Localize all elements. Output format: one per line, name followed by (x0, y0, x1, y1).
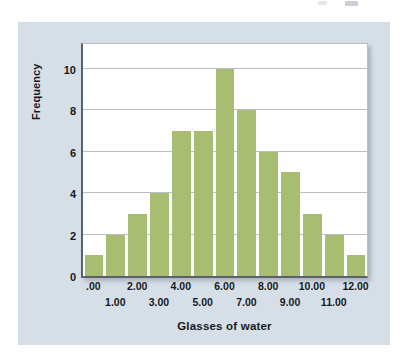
x-axis-tick-label: 2.00 (127, 281, 147, 292)
bar (259, 152, 278, 276)
scan-artifact-icon (345, 1, 358, 6)
bar (128, 214, 147, 276)
x-axis-tick-label: .00 (86, 281, 101, 292)
x-axis-tick-label: 12.00 (342, 281, 368, 292)
x-axis-tick-label: 3.00 (149, 297, 169, 308)
bar (194, 131, 213, 276)
bar (347, 255, 366, 276)
scan-artifact-icon (318, 1, 327, 5)
bar (216, 69, 235, 276)
x-axis-tick-label: 8.00 (258, 281, 278, 292)
x-axis-tick-label: 9.00 (280, 297, 300, 308)
x-axis-tick-label: 1.00 (105, 297, 125, 308)
plot-area (81, 43, 368, 278)
y-axis-tick-label: 0 (58, 272, 76, 283)
x-axis-tick-label: 10.00 (299, 281, 325, 292)
y-axis-tick-label: 6 (58, 147, 76, 158)
y-axis-title: Frequency (30, 63, 42, 120)
histogram-figure: Frequency 0246810 .001.002.003.004.005.0… (0, 0, 415, 363)
y-axis-tick-label: 8 (58, 106, 76, 117)
bar (106, 235, 125, 276)
x-axis-tick-label: 4.00 (171, 281, 191, 292)
y-axis-tick-label: 10 (58, 64, 76, 75)
bar (303, 214, 322, 276)
bar (85, 255, 104, 276)
y-axis-tick-labels: 0246810 (58, 43, 76, 278)
x-axis-tick-label: 11.00 (321, 297, 347, 308)
bar (325, 235, 344, 276)
bar (172, 131, 191, 276)
bar (150, 193, 169, 276)
y-axis-tick-label: 4 (58, 189, 76, 200)
x-axis-tick-label: 6.00 (214, 281, 234, 292)
x-axis-tick-labels: .001.002.003.004.005.006.007.008.009.001… (81, 281, 368, 317)
y-axis-tick-label: 2 (58, 230, 76, 241)
x-axis-tick-label: 5.00 (192, 297, 212, 308)
x-axis-tick-label: 7.00 (236, 297, 256, 308)
x-axis-title: Glasses of water (81, 320, 368, 332)
bars-series (83, 44, 367, 276)
bar (237, 110, 256, 276)
bar (281, 172, 300, 276)
